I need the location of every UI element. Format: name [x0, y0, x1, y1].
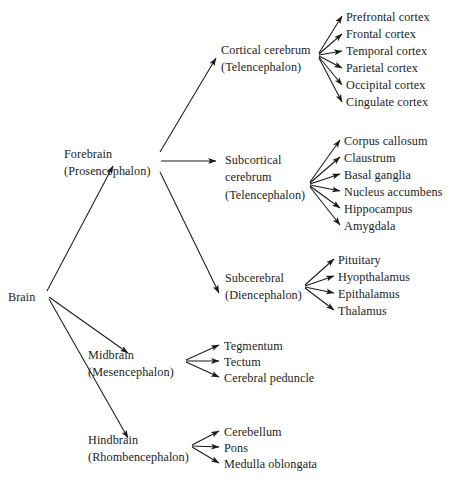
leaf-item[interactable]: Parietal cortex	[346, 60, 418, 77]
leaf-label: Pituitary	[338, 253, 381, 267]
leaf-item[interactable]: Cerebral peduncle	[224, 370, 314, 387]
leaf-item[interactable]: Hippocampus	[344, 201, 413, 218]
leaf-label: Tectum	[224, 355, 261, 369]
leaf-item[interactable]: Tectum	[224, 354, 261, 371]
leaf-label: Nucleus accumbens	[344, 185, 443, 199]
leaf-item[interactable]: Medulla oblongata	[224, 456, 317, 473]
node-brain-label: Brain	[8, 289, 35, 306]
leaf-item[interactable]: Claustrum	[344, 150, 396, 167]
edge-midbrain-3	[186, 362, 219, 377]
node-hindbrain[interactable]: Hindbrain (Rhombencephalon)	[88, 432, 189, 467]
edge-subcerebral-2	[305, 276, 334, 286]
node-cortical-cerebrum-sublabel: (Telencephalon)	[221, 59, 311, 76]
leaf-item[interactable]: Occipital cortex	[346, 77, 425, 94]
node-hindbrain-label: Hindbrain	[88, 432, 189, 449]
leaf-label: Cerebellum	[224, 425, 282, 439]
edge-subcortical-5	[310, 186, 340, 208]
leaf-label: Frontal cortex	[346, 27, 416, 41]
edge-subcortical-3	[310, 174, 340, 184]
node-cortical-cerebrum[interactable]: Cortical cerebrum (Telencephalon)	[221, 42, 311, 77]
edge-cortical-6	[319, 58, 342, 102]
leaf-label: Cerebral peduncle	[224, 371, 314, 385]
leaf-label: Amygdala	[344, 219, 395, 233]
leaf-item[interactable]: Pons	[224, 440, 248, 457]
node-midbrain-sublabel: (Mesencephalon)	[88, 364, 174, 381]
edge-subcortical-4	[310, 185, 340, 191]
node-subcerebral-sublabel: (Diencephalon)	[225, 287, 302, 304]
edge-subcortical-1	[310, 140, 340, 182]
edge-subcortical-6	[310, 187, 340, 225]
edge-subcerebral-1	[305, 259, 334, 285]
leaf-item[interactable]: Temporal cortex	[346, 43, 427, 60]
edge-cortical-2	[319, 34, 342, 54]
leaf-item[interactable]: Thalamus	[338, 303, 387, 320]
leaf-item[interactable]: Cingulate cortex	[346, 94, 428, 111]
leaf-item[interactable]: Cerebellum	[224, 424, 282, 441]
leaf-item[interactable]: Hyopthalamus	[338, 269, 410, 286]
leaf-label: Parietal cortex	[346, 61, 418, 75]
leaf-label: Occipital cortex	[346, 78, 425, 92]
leaf-item[interactable]: Pituitary	[338, 252, 381, 269]
leaf-label: Epithalamus	[338, 287, 400, 301]
leaf-label: Claustrum	[344, 151, 396, 165]
leaf-label: Cingulate cortex	[346, 95, 428, 109]
edge-subcerebral-3	[305, 287, 334, 293]
edge-hindbrain-3	[192, 447, 219, 463]
edge-midbrain-1	[186, 345, 219, 360]
leaf-label: Tegmentum	[224, 339, 283, 353]
node-subcortical-cerebrum[interactable]: Subcortical cerebrum (Telencephalon)	[225, 152, 305, 204]
leaf-label: Corpus callosum	[344, 134, 427, 148]
node-forebrain-label: Forebrain	[64, 146, 151, 163]
node-subcortical-cerebrum-sublabel: (Telencephalon)	[225, 187, 305, 204]
leaf-label: Hyopthalamus	[338, 270, 410, 284]
leaf-label: Pons	[224, 441, 248, 455]
edge-subcortical-2	[310, 157, 340, 183]
node-subcortical-cerebrum-label: Subcortical	[225, 152, 305, 169]
leaf-label: Medulla oblongata	[224, 457, 317, 471]
leaf-label: Thalamus	[338, 304, 387, 318]
node-subcerebral[interactable]: Subcerebral (Diencephalon)	[225, 270, 302, 305]
leaf-item[interactable]: Prefrontal cortex	[346, 9, 430, 26]
edge-forebrain-cortical	[160, 58, 216, 152]
leaf-item[interactable]: Epithalamus	[338, 286, 400, 303]
node-forebrain[interactable]: Forebrain (Prosencephalon)	[64, 146, 151, 181]
node-subcortical-cerebrum-label2: cerebrum	[225, 169, 305, 186]
leaf-label: Prefrontal cortex	[346, 10, 430, 24]
node-hindbrain-sublabel: (Rhombencephalon)	[88, 449, 189, 466]
edge-brain-forebrain	[47, 166, 113, 291]
leaf-item[interactable]: Tegmentum	[224, 338, 283, 355]
edge-brain-midbrain	[49, 297, 128, 353]
edge-cortical-1	[319, 16, 342, 53]
edge-cortical-4	[319, 56, 342, 68]
node-forebrain-sublabel: (Prosencephalon)	[64, 163, 151, 180]
node-cortical-cerebrum-label: Cortical cerebrum	[221, 42, 311, 59]
leaf-label: Temporal cortex	[346, 44, 427, 58]
leaf-item[interactable]: Basal ganglia	[344, 167, 411, 184]
brain-hierarchy-diagram: Brain Forebrain (Prosencephalon) Midbrai…	[0, 0, 461, 494]
leaf-label: Hippocampus	[344, 202, 413, 216]
edge-subcerebral-4	[305, 288, 334, 310]
edge-cortical-5	[319, 57, 342, 85]
node-subcerebral-label: Subcerebral	[225, 270, 302, 287]
node-brain[interactable]: Brain	[8, 289, 35, 306]
node-midbrain[interactable]: Midbrain (Mesencephalon)	[88, 347, 174, 382]
leaf-item[interactable]: Nucleus accumbens	[344, 184, 443, 201]
node-midbrain-label: Midbrain	[88, 347, 174, 364]
leaf-item[interactable]: Frontal cortex	[346, 26, 416, 43]
edge-hindbrain-2	[192, 446, 219, 447]
leaf-label: Basal ganglia	[344, 168, 411, 182]
leaf-item[interactable]: Corpus callosum	[344, 133, 427, 150]
edge-cortical-3	[319, 51, 342, 55]
edge-hindbrain-1	[192, 431, 219, 445]
leaf-item[interactable]: Amygdala	[344, 218, 395, 235]
edge-forebrain-subcerebral	[160, 172, 219, 293]
